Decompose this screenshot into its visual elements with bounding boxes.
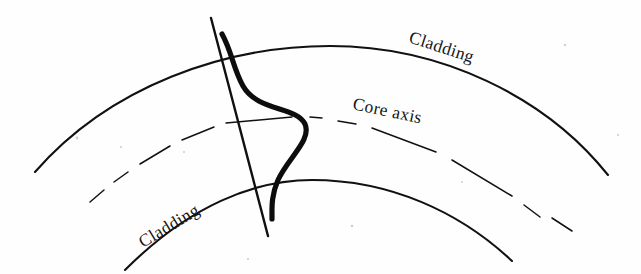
- core-axis-segment: [524, 205, 540, 217]
- core-axis-segment: [452, 160, 512, 196]
- core-axis-segment: [310, 117, 322, 118]
- speck: [351, 225, 354, 228]
- speck: [247, 258, 249, 260]
- core-axis-segment: [372, 128, 436, 152]
- label-cladding-bottom: Cladding: [135, 200, 203, 252]
- core-axis-segment: [90, 190, 104, 202]
- core-axis-centerline: [90, 117, 572, 231]
- speck: [120, 146, 122, 148]
- core-axis-segment: [140, 146, 170, 164]
- speck: [617, 134, 619, 136]
- outer-cladding-boundary-arc: [35, 46, 608, 175]
- speck: [564, 44, 566, 46]
- speck: [183, 151, 185, 153]
- fiber-bend-figure: Cladding Core axis Cladding: [0, 0, 641, 274]
- label-core-axis: Core axis: [351, 93, 424, 127]
- core-axis-segment: [338, 121, 356, 124]
- transverse-reference-line: [211, 18, 268, 236]
- label-cladding-top: Cladding: [407, 27, 477, 67]
- speck: [461, 181, 463, 183]
- core-axis-segment: [552, 218, 572, 231]
- speck: [76, 137, 79, 140]
- figure-canvas: Cladding Core axis Cladding: [0, 0, 641, 274]
- core-axis-segment: [114, 172, 128, 182]
- mode-field-distribution-curve: [222, 34, 306, 219]
- core-axis-segment: [182, 127, 214, 140]
